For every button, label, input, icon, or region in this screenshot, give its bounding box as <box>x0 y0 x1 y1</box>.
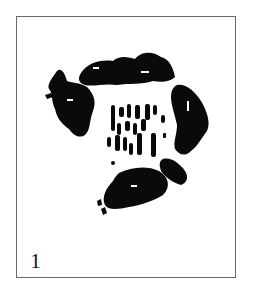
figure-label: 1 <box>30 250 41 272</box>
figure-plate: 1 <box>16 16 236 278</box>
seal-rubbing-image <box>17 17 235 277</box>
